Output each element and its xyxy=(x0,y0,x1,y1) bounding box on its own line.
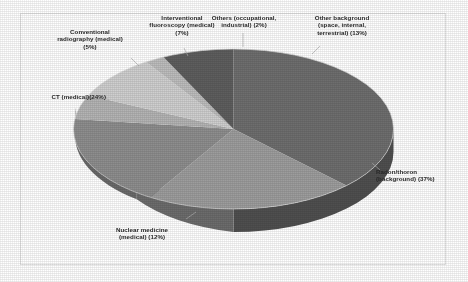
leader-line-other-background xyxy=(312,46,320,54)
label-other-background: Other background (space, internal, terre… xyxy=(296,14,388,36)
label-nuclear-medicine: Nuclear medicine (medical) (12%) xyxy=(88,226,196,241)
label-radon-thoron: Radon/thoron (background) (37%) xyxy=(376,168,462,183)
leader-line-conventional xyxy=(131,58,139,66)
label-others-occupational: Others (occupational, industrial) (2%) xyxy=(196,14,292,29)
label-conventional-radiography: Conventional radiography (medical) (5%) xyxy=(44,28,136,50)
label-ct: CT (medical)(24%) xyxy=(6,93,106,100)
